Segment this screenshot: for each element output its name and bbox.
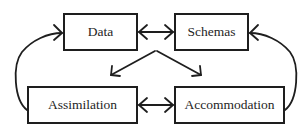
node-assimilation-label: Assimilation	[48, 97, 117, 113]
node-data: Data	[63, 13, 138, 51]
bidirectional-arrow-assimilation-accommodation	[139, 98, 173, 112]
bidirectional-arrow-data-schemas	[139, 25, 173, 39]
node-schemas-label: Schemas	[188, 24, 236, 40]
node-schemas: Schemas	[174, 13, 249, 51]
node-accommodation: Accommodation	[174, 86, 285, 124]
node-accommodation-label: Accommodation	[185, 97, 275, 113]
arrow-to-accommodation	[157, 51, 201, 76]
arrow-to-assimilation	[111, 51, 155, 76]
node-data-label: Data	[88, 24, 113, 40]
node-assimilation: Assimilation	[27, 86, 138, 124]
piaget-schema-diagram: Data Schemas Assimilation Accommodation	[0, 0, 306, 130]
